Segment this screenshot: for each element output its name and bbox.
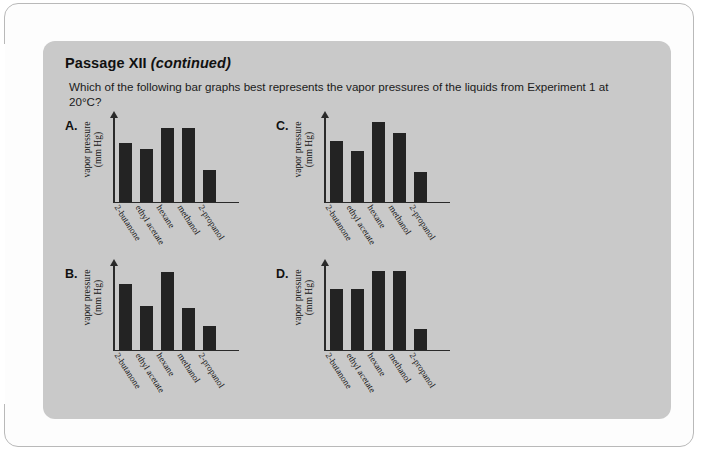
answer-choices-charts: A. vapor pressure (mm Hg) — [51, 113, 671, 413]
bar-a-0 — [119, 143, 132, 202]
bar-a-1 — [140, 149, 153, 201]
y-axis-label-line2-b: (mm Hg) — [92, 259, 103, 337]
x-label-a-2: hexane — [155, 203, 177, 230]
x-axis-labels-b: 2-butanone ethyl acetate hexane methanol… — [111, 349, 261, 409]
y-axis-arrow-icon-d — [321, 259, 329, 266]
bar-group-d — [330, 266, 442, 350]
x-label-b-2: hexane — [155, 351, 177, 378]
page-title: Passage XII (continued) — [65, 55, 231, 71]
bar-c-2 — [372, 122, 385, 202]
y-axis-label-d: vapor pressure (mm Hg) — [293, 259, 314, 337]
bar-d-0 — [330, 289, 343, 349]
bar-b-0 — [119, 284, 132, 350]
y-axis-line-d — [324, 265, 326, 351]
bar-group-b — [119, 266, 231, 350]
choice-letter-c: C. — [276, 119, 289, 133]
y-axis-label-line2-a: (mm Hg) — [92, 111, 103, 189]
plot-area-b — [113, 265, 239, 351]
choice-letter-b: B. — [65, 267, 78, 281]
y-axis-label-line1-a: vapor pressure — [82, 111, 93, 189]
y-axis-label-line1-c: vapor pressure — [293, 111, 304, 189]
bar-c-4 — [414, 172, 427, 201]
answer-choice-d[interactable]: D. vapor pressure (mm Hg) — [276, 261, 486, 411]
x-axis-labels-d: 2-butanone ethyl acetate hexane methanol… — [322, 349, 472, 409]
x-label-a-4: 2-propanol — [197, 203, 227, 242]
choice-letter-a: A. — [65, 119, 78, 133]
y-axis-label-line2-c: (mm Hg) — [303, 111, 314, 189]
choice-letter-d: D. — [276, 267, 289, 281]
x-label-b-4: 2-propanol — [197, 351, 227, 390]
bar-b-4 — [203, 326, 216, 350]
y-axis-arrow-icon-a — [110, 111, 118, 118]
bar-a-4 — [203, 170, 216, 202]
y-axis-line-c — [324, 117, 326, 203]
page-sheet: Passage XII (continued) Which of the fol… — [4, 3, 694, 447]
bar-c-1 — [351, 151, 364, 201]
passage-title-continued: (continued) — [151, 55, 231, 71]
y-axis-label-line1-b: vapor pressure — [82, 259, 93, 337]
bar-a-2 — [161, 128, 174, 202]
plot-area-c — [324, 117, 450, 203]
bar-a-3 — [182, 128, 195, 202]
x-label-d-2: hexane — [366, 351, 388, 378]
bar-b-3 — [182, 308, 195, 350]
y-axis-label-b: vapor pressure (mm Hg) — [82, 259, 103, 337]
y-axis-label-a: vapor pressure (mm Hg) — [82, 111, 103, 189]
answer-choice-b[interactable]: B. vapor pressure (mm Hg) — [65, 261, 275, 411]
x-label-c-4: 2-propanol — [408, 203, 438, 242]
y-axis-label-c: vapor pressure (mm Hg) — [293, 111, 314, 189]
x-axis-labels-c: 2-butanone ethyl acetate hexane methanol… — [322, 201, 472, 261]
bar-c-0 — [330, 141, 343, 201]
passage-title-main: Passage XII — [65, 55, 147, 71]
plot-area-a — [113, 117, 239, 203]
bar-group-a — [119, 118, 231, 202]
y-axis-label-line1-d: vapor pressure — [293, 259, 304, 337]
bar-d-2 — [372, 271, 385, 349]
bar-b-2 — [161, 272, 174, 349]
y-axis-line-a — [113, 117, 115, 203]
x-axis-labels-a: 2-butanone ethyl acetate hexane methanol… — [111, 201, 261, 261]
answer-choice-c[interactable]: C. vapor pressure (mm Hg) — [276, 113, 486, 263]
x-label-d-4: 2-propanol — [408, 351, 438, 390]
bar-d-1 — [351, 289, 364, 349]
plot-area-d — [324, 265, 450, 351]
question-text: Which of the following bar graphs best r… — [69, 79, 639, 109]
bar-b-1 — [140, 306, 153, 350]
x-label-c-2: hexane — [366, 203, 388, 230]
bar-group-c — [330, 118, 442, 202]
y-axis-arrow-icon-b — [110, 259, 118, 266]
y-axis-label-line2-d: (mm Hg) — [303, 259, 314, 337]
answer-choice-a[interactable]: A. vapor pressure (mm Hg) — [65, 113, 275, 263]
bar-d-4 — [414, 329, 427, 350]
y-axis-line-b — [113, 265, 115, 351]
passage-panel: Passage XII (continued) Which of the fol… — [43, 41, 671, 419]
y-axis-arrow-icon-c — [321, 111, 329, 118]
bar-d-3 — [393, 271, 406, 349]
bar-c-3 — [393, 133, 406, 202]
